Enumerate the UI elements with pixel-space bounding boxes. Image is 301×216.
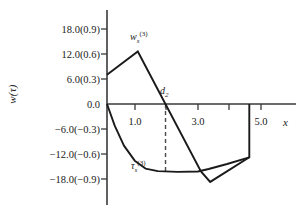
- series-line-tau: [107, 104, 249, 172]
- y-axis-ticks: [101, 29, 107, 179]
- series-line-w: [107, 52, 249, 182]
- x-axis-ticks: [135, 104, 261, 110]
- chart-figure: w(τ) 18.0(0.9) 12.0(0.6) 6.0(0.3) 0.0 −6…: [0, 0, 301, 216]
- chart-plot-area: [0, 0, 301, 216]
